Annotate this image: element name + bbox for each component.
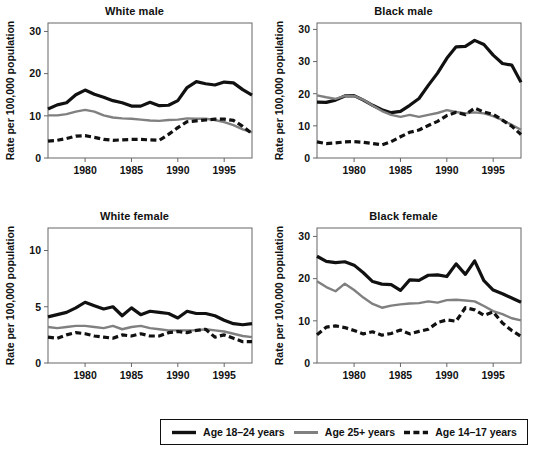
svg-text:1980: 1980	[342, 164, 366, 176]
plot-white-male: 01020301980198519901995Rate per 100,000 …	[0, 0, 269, 205]
panel-black-male: Black male 0102030301980198519901995Rate…	[269, 0, 538, 205]
svg-text:0: 0	[35, 152, 41, 164]
panel-white-female: White female 05101980198519901995Rate pe…	[0, 205, 269, 410]
svg-text:5: 5	[35, 301, 41, 313]
svg-text:10: 10	[298, 120, 310, 132]
svg-text:0: 0	[35, 357, 41, 369]
legend-label-age-18-24: Age 18–24 years	[203, 426, 285, 438]
svg-text:1995: 1995	[213, 164, 237, 176]
svg-text:10: 10	[29, 244, 41, 256]
legend-item-age-18-24: Age 18–24 years	[171, 426, 285, 438]
svg-text:1990: 1990	[166, 164, 190, 176]
svg-text:30: 30	[298, 55, 310, 67]
legend-items: Age 18–24 years Age 25+ years Age 14–17 …	[161, 420, 527, 444]
figure-firearm-homicide-rates: White male 01020301980198519901995Rate p…	[0, 0, 538, 457]
svg-text:1995: 1995	[213, 369, 237, 381]
panel-black-female: Black female 01020301980198519901995Rate…	[269, 205, 538, 410]
svg-text:1995: 1995	[482, 164, 506, 176]
legend-label-age-14-17: Age 14–17 years	[435, 426, 517, 438]
svg-text:0: 0	[304, 357, 310, 369]
svg-text:1990: 1990	[435, 369, 459, 381]
svg-text:1985: 1985	[120, 164, 144, 176]
svg-text:30: 30	[298, 23, 310, 35]
svg-text:1980: 1980	[73, 369, 97, 381]
svg-text:1990: 1990	[166, 369, 190, 381]
plot-black-male: 0102030301980198519901995Rate per 100,00…	[269, 0, 538, 205]
svg-text:1985: 1985	[389, 164, 413, 176]
svg-text:10: 10	[29, 110, 41, 122]
svg-text:1985: 1985	[389, 369, 413, 381]
legend: Age 18–24 years Age 25+ years Age 14–17 …	[160, 419, 528, 445]
svg-text:Rate per 100,000 population: Rate per 100,000 population	[4, 21, 16, 160]
svg-text:Rate per 100,000 population: Rate per 100,000 population	[273, 21, 285, 160]
svg-text:1985: 1985	[120, 369, 144, 381]
svg-text:30: 30	[298, 230, 310, 242]
svg-text:20: 20	[298, 272, 310, 284]
legend-item-age-25-plus: Age 25+ years	[293, 426, 395, 438]
legend-swatch-solid-black-icon	[171, 427, 197, 438]
plot-black-female: 01020301980198519901995Rate per 100,000 …	[269, 205, 538, 410]
svg-text:0: 0	[304, 152, 310, 164]
svg-text:20: 20	[298, 88, 310, 100]
svg-text:1980: 1980	[342, 369, 366, 381]
svg-text:10: 10	[298, 315, 310, 327]
legend-swatch-dashed-black-icon	[403, 427, 429, 438]
svg-text:20: 20	[29, 67, 41, 79]
svg-text:1990: 1990	[435, 164, 459, 176]
svg-text:Rate per 100,000 population: Rate per 100,000 population	[273, 226, 285, 365]
legend-swatch-solid-gray-icon	[293, 427, 319, 438]
legend-item-age-14-17: Age 14–17 years	[403, 426, 517, 438]
panel-grid: White male 01020301980198519901995Rate p…	[0, 0, 538, 410]
plot-white-female: 05101980198519901995Rate per 100,000 pop…	[0, 205, 269, 410]
svg-text:1995: 1995	[482, 369, 506, 381]
panel-white-male: White male 01020301980198519901995Rate p…	[0, 0, 269, 205]
svg-text:Rate per 100,000 population: Rate per 100,000 population	[4, 226, 16, 365]
svg-text:30: 30	[29, 25, 41, 37]
svg-text:1980: 1980	[73, 164, 97, 176]
legend-label-age-25-plus: Age 25+ years	[325, 426, 395, 438]
